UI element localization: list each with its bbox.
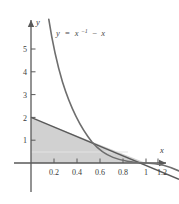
curve-eq-exponent: −1 — [81, 28, 88, 34]
y-tick-label-5: 5 — [23, 45, 27, 54]
x-tick-label-1.2: 1.2 — [157, 168, 167, 177]
curve-equation-label: y = x −1 − x — [55, 25, 105, 38]
y-tick-label-1: 1 — [23, 136, 27, 145]
x-tick-label-0.4: 0.4 — [72, 168, 82, 177]
figure-container: y x 0.2 0.4 0.6 0.8 1 1.2 1 2 3 4 5 y = … — [0, 0, 179, 204]
y-axis-label: y — [35, 17, 40, 27]
y-tick-label-4: 4 — [23, 68, 27, 77]
curve-eq-base: x — [74, 28, 79, 38]
x-tick-label-0.2: 0.2 — [49, 168, 59, 177]
x-tick-label-0.8: 0.8 — [118, 168, 128, 177]
x-tick-labels: 0.2 0.4 0.6 0.8 1 1.2 — [49, 168, 167, 177]
x-tick-label-0.6: 0.6 — [95, 168, 105, 177]
curve-eq-rhs: x — [100, 28, 105, 38]
x-axis-label: x — [159, 145, 164, 155]
y-axis-arrowhead — [28, 20, 34, 27]
y-tick-labels: 1 2 3 4 5 — [23, 45, 27, 145]
curve-eq-minus: − — [92, 28, 97, 38]
x-tick-label-1: 1 — [144, 168, 148, 177]
curve-eq-equals: = — [65, 28, 70, 38]
graph-plot: y x 0.2 0.4 0.6 0.8 1 1.2 1 2 3 4 5 y = … — [0, 0, 179, 204]
curve-eq-lhs: y — [55, 28, 60, 38]
y-tick-label-3: 3 — [23, 91, 27, 100]
y-tick-label-2: 2 — [23, 114, 27, 123]
